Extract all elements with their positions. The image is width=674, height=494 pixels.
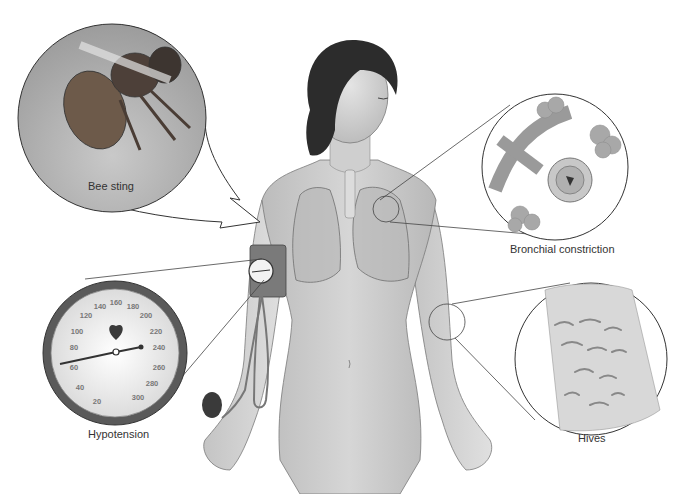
svg-text:100: 100 <box>71 327 84 336</box>
bronchial-constriction-label: Bronchial constriction <box>510 243 615 255</box>
svg-text:200: 200 <box>140 311 153 320</box>
svg-text:240: 240 <box>153 343 166 352</box>
svg-text:260: 260 <box>153 363 166 372</box>
svg-text:160: 160 <box>110 298 123 307</box>
human-figure <box>204 40 492 494</box>
svg-text:280: 280 <box>146 379 159 388</box>
svg-text:300: 300 <box>132 393 145 402</box>
svg-text:20: 20 <box>93 397 101 406</box>
svg-text:140: 140 <box>94 302 107 311</box>
bronchial-callout <box>482 94 628 240</box>
svg-text:40: 40 <box>76 383 84 392</box>
anaphylaxis-diagram: Bee sting 20 40 60 80 100 120 140 160 18… <box>0 0 674 494</box>
hypotension-label: Hypotension <box>88 428 149 440</box>
bee-sting-label: Bee sting <box>88 180 134 192</box>
bee-sting-callout <box>18 24 260 228</box>
svg-text:180: 180 <box>127 302 140 311</box>
svg-text:60: 60 <box>70 363 78 372</box>
svg-text:80: 80 <box>70 343 78 352</box>
hives-callout <box>515 283 667 435</box>
svg-text:220: 220 <box>150 327 163 336</box>
bp-gauge: 20 40 60 80 100 120 140 160 180 200 220 … <box>43 281 187 425</box>
svg-text:120: 120 <box>80 311 93 320</box>
hives-label: Hives <box>578 432 606 444</box>
